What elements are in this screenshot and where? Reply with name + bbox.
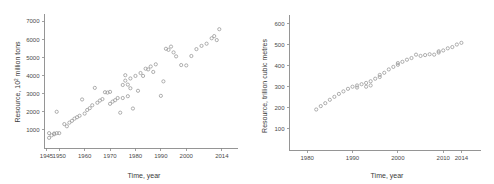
data-point <box>215 38 218 41</box>
data-point <box>328 98 331 101</box>
data-point <box>180 63 183 66</box>
y-tick-label: 4000 <box>26 73 40 79</box>
data-point <box>423 53 426 56</box>
data-point <box>324 102 327 105</box>
data-point <box>428 53 431 56</box>
data-point <box>47 136 50 139</box>
y-tick-label: 100 <box>274 126 285 132</box>
data-point <box>369 84 372 87</box>
axes-left: 1000200030004000500060007000194519501960… <box>26 14 238 159</box>
x-axis-title-right: Time, year <box>371 172 404 180</box>
data-point <box>460 41 463 44</box>
x-tick-label: 2014 <box>215 153 229 159</box>
data-point <box>419 54 422 57</box>
data-point <box>119 111 122 114</box>
y-tick-label: 7000 <box>26 18 40 24</box>
data-point <box>205 42 208 45</box>
chart-panel-left: 1000200030004000500060007000194519501960… <box>0 0 247 184</box>
data-point <box>333 95 336 98</box>
data-point <box>337 92 340 95</box>
x-tick-label: 2000 <box>391 155 405 161</box>
x-tick-label: 1970 <box>103 153 117 159</box>
y-tick-label: 400 <box>274 63 285 69</box>
y-tick-label: 600 <box>274 21 285 27</box>
data-point <box>365 81 368 84</box>
y-tick-label: 6000 <box>26 37 40 43</box>
data-point <box>129 77 132 80</box>
x-tick-label: 2014 <box>455 155 469 161</box>
y-axis-title-right: Resource, trillion cubic metres <box>261 39 268 133</box>
data-point <box>116 96 119 99</box>
data-point <box>342 90 345 93</box>
x-tick-label: 1960 <box>78 153 92 159</box>
data-point <box>392 65 395 68</box>
data-point <box>405 58 408 61</box>
y-tick-label: 1000 <box>26 127 40 133</box>
data-point <box>136 89 139 92</box>
data-point <box>433 53 436 56</box>
data-point <box>159 94 162 97</box>
data-point <box>88 107 91 110</box>
data-point <box>91 104 94 107</box>
data-point <box>190 54 193 57</box>
x-axis-title-left: Time, year <box>128 172 161 180</box>
data-point <box>81 98 84 101</box>
data-point <box>365 85 368 88</box>
data-point <box>175 55 178 58</box>
data-point <box>83 112 86 115</box>
data-point <box>172 51 175 54</box>
data-point <box>129 87 132 90</box>
y-axis-title-left: Resource, 102 million tons <box>14 41 21 123</box>
data-point <box>213 34 216 37</box>
y-tick-label: 200 <box>274 105 285 111</box>
data-point <box>55 110 58 113</box>
data-point <box>451 45 454 48</box>
data-point <box>360 83 363 86</box>
data-point <box>446 47 449 50</box>
data-point <box>185 64 188 67</box>
data-point <box>355 84 358 87</box>
y-tick-label: 300 <box>274 84 285 90</box>
data-point <box>152 70 155 73</box>
axes-right: 10020030040050060019801990200020102014 <box>274 15 481 161</box>
data-point <box>131 107 134 110</box>
data-point <box>121 96 124 99</box>
x-tick-label: 2000 <box>180 153 194 159</box>
data-point <box>455 43 458 46</box>
x-tick-label: 1990 <box>346 155 360 161</box>
data-point <box>319 105 322 108</box>
data-point <box>134 74 137 77</box>
data-point <box>387 68 390 71</box>
data-point <box>162 80 165 83</box>
data-point <box>351 85 354 88</box>
data-point <box>369 80 372 83</box>
scatter-plot-left: 1000200030004000500060007000194519501960… <box>0 0 247 184</box>
x-tick-label: 1980 <box>129 153 143 159</box>
y-tick-label: 3000 <box>26 91 40 97</box>
x-tick-label: 1980 <box>300 155 314 161</box>
y-tick-label: 2000 <box>26 109 40 115</box>
data-point <box>414 53 417 56</box>
data-point <box>101 98 104 101</box>
y-tick-label: 5000 <box>26 55 40 61</box>
data-point <box>93 86 96 89</box>
figure-container: 1000200030004000500060007000194519501960… <box>0 0 494 184</box>
data-point <box>374 77 377 80</box>
data-point <box>442 49 445 52</box>
data-point <box>126 83 129 86</box>
data-point <box>78 114 81 117</box>
data-point <box>65 125 68 128</box>
data-point <box>410 56 413 59</box>
data-point <box>126 95 129 98</box>
data-point <box>315 108 318 111</box>
x-tick-label: 2010 <box>437 155 451 161</box>
data-point <box>378 73 381 76</box>
x-tick-label: 1950 <box>53 153 67 159</box>
data-point <box>383 71 386 74</box>
data-point <box>218 28 221 31</box>
data-point <box>124 74 127 77</box>
data-point <box>346 87 349 90</box>
y-tick-label: 500 <box>274 42 285 48</box>
data-points-right <box>315 41 463 111</box>
data-point <box>154 63 157 66</box>
